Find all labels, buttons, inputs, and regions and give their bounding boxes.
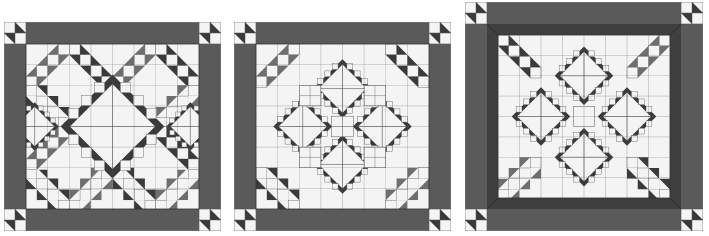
quilt-four-diamonds-x [234, 22, 451, 231]
quilt-center-diamond [4, 22, 221, 231]
quilt-four-diamonds-corners [465, 2, 703, 231]
